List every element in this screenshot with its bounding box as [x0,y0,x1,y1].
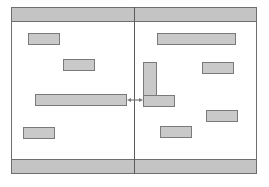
double-arrow-connector-icon [0,0,269,187]
